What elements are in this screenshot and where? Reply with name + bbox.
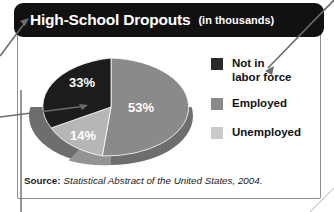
source-label: Source: (24, 175, 60, 186)
legend-label-employed: Employed (232, 97, 287, 111)
title-bar-inner: High-School Dropouts (in thousands) (14, 3, 324, 37)
page-title: High-School Dropouts (30, 11, 190, 29)
legend-item-employed: Employed (211, 97, 323, 111)
pie-chart: 53% 14% 33% (22, 44, 200, 170)
pie-label-unemployed: 14% (70, 128, 96, 143)
pie-label-not-in-labor-force: 33% (69, 75, 95, 90)
legend-label-unemployed: Unemployed (232, 126, 301, 140)
legend-item-unemployed: Unemployed (211, 126, 323, 140)
pie-chart-svg: 53% 14% 33% (22, 44, 200, 170)
legend-label-not-in-labor-force: Not in labor force (232, 57, 291, 84)
legend-swatch-icon-not-in-labor-force (211, 58, 223, 70)
legend: Not in labor force Employed Unemployed (211, 57, 323, 152)
legend-swatch-icon-employed (211, 98, 223, 110)
legend-item-not-in-labor-force: Not in labor force (211, 57, 323, 84)
legend-swatch-icon-unemployed (211, 127, 223, 139)
figure-root: High-School Dropouts (in thousands) (0, 0, 334, 212)
title-bar: High-School Dropouts (in thousands) (14, 3, 324, 37)
source-line: Source:Statistical Abstract of the Unite… (24, 175, 262, 186)
title-subtitle: (in thousands) (198, 14, 274, 26)
source-text: Statistical Abstract of the United State… (63, 175, 262, 186)
pie-label-employed: 53% (128, 100, 154, 115)
